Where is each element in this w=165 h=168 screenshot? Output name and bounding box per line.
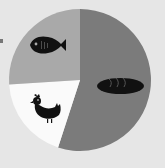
bread-icon — [97, 78, 144, 94]
pie-chart — [0, 0, 165, 168]
